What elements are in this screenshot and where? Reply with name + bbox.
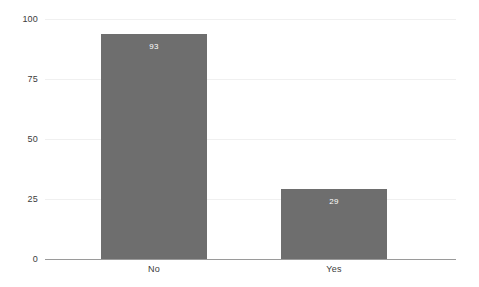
bar-chart: 100 75 50 25 0 93 29 No Yes: [0, 0, 479, 287]
x-axis-labels: No Yes: [0, 0, 479, 287]
x-tick-label-no: No: [101, 264, 207, 275]
x-tick-label-yes: Yes: [281, 264, 387, 275]
